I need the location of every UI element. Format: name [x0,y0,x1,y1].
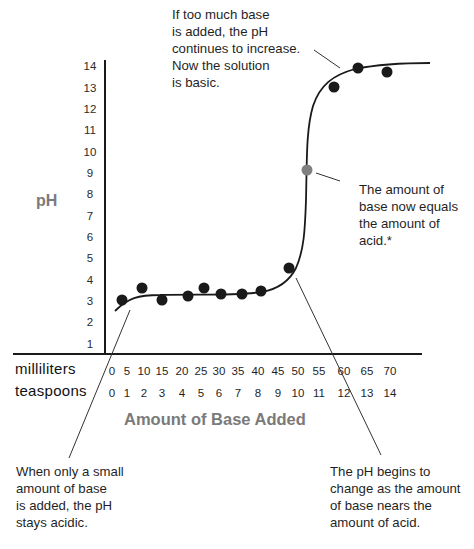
milliliters-row-label: milliliters [15,360,76,377]
tsp-tick: 14 [384,387,397,399]
ml-tick: 0 [109,365,115,377]
teaspoons-row-label: teaspoons [15,382,87,399]
tsp-tick: 1 [124,387,130,399]
tsp-tick: 9 [275,387,281,399]
data-point [256,286,267,297]
y-tick-10: 10 [84,146,97,158]
x-axis-title: Amount of Base Added [124,410,306,429]
data-point [183,291,194,302]
data-points [117,63,393,306]
y-tick-7: 7 [87,210,93,222]
data-point [382,67,393,78]
annotation-equivalence: The amount of base now equals the amount… [359,181,458,249]
y-tick-6: 6 [87,231,93,243]
data-point [137,283,148,294]
ml-tick: 30 [213,365,226,377]
tsp-tick: 8 [255,387,261,399]
y-tick-14: 14 [84,60,97,72]
annotation-basic: If too much base is added, the pH contin… [172,6,300,91]
ml-tick: 55 [313,365,326,377]
tsp-tick: 0 [109,387,115,399]
annotation-acidic: When only a small amount of base is adde… [16,463,124,531]
equivalence-point [302,165,313,176]
data-point [329,82,340,93]
ml-tick: 35 [232,365,245,377]
tsp-tick: 3 [159,387,165,399]
data-point [353,63,364,74]
tsp-tick: 7 [235,387,241,399]
leader-line-top [314,50,340,68]
leader-line-right [316,173,340,181]
tsp-tick: 12 [338,387,351,399]
y-tick-1: 1 [87,338,93,350]
y-tick-13: 13 [84,82,97,94]
ml-tick: 25 [195,365,208,377]
ml-tick: 10 [138,365,151,377]
y-tick-9: 9 [87,167,93,179]
data-point [284,263,295,274]
annotation-change: The pH begins to change as the amount of… [330,463,461,531]
y-axis-title: pH [36,192,57,210]
data-point [199,283,210,294]
y-tick-8: 8 [87,188,93,200]
ml-tick: 40 [252,365,265,377]
ml-tick: 60 [338,365,351,377]
ml-tick: 15 [156,365,169,377]
ml-tick: 50 [292,365,305,377]
data-point [117,295,128,306]
tsp-tick: 6 [216,387,222,399]
y-tick-11: 11 [84,124,96,136]
y-tick-labels: 1 2 3 4 5 6 7 8 9 10 11 12 13 14 [84,60,97,350]
ml-tick: 20 [176,365,189,377]
data-point [216,289,227,300]
ml-tick: 45 [272,365,285,377]
y-tick-3: 3 [87,295,93,307]
y-tick-4: 4 [87,274,94,286]
ml-tick: 65 [361,365,374,377]
y-tick-12: 12 [84,103,97,115]
y-tick-2: 2 [87,316,93,328]
tsp-tick: 10 [292,387,305,399]
ml-tick: 5 [124,365,130,377]
x-tick-labels-milliliters: 0 5 10 15 20 25 30 35 40 45 50 55 60 65 … [109,365,397,377]
data-point [157,295,168,306]
ml-tick: 70 [384,365,397,377]
tsp-tick: 11 [313,387,325,399]
tsp-tick: 13 [361,387,374,399]
tsp-tick: 5 [198,387,204,399]
data-point [237,289,248,300]
tsp-tick: 4 [179,387,186,399]
tsp-tick: 2 [141,387,147,399]
y-tick-5: 5 [87,252,93,264]
